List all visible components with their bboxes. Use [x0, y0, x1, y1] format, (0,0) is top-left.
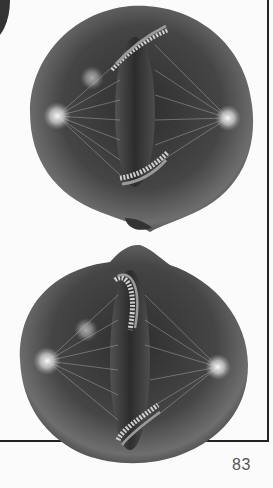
cell-top: [30, 6, 253, 232]
centrosome-left-icon: [43, 102, 71, 130]
cell-bottom: [20, 245, 248, 463]
centrosome-right-icon: [215, 105, 241, 131]
textbook-page: 83: [0, 0, 273, 488]
page-number: 83: [232, 456, 251, 474]
centrosome-left-icon: [33, 347, 61, 375]
centrosome-right-icon: [205, 354, 231, 380]
mitosis-illustration: [0, 0, 273, 488]
